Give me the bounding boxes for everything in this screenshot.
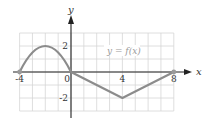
endpoint-dot xyxy=(17,70,22,75)
y-tick-label: 2 xyxy=(62,41,68,51)
x-tick-label: 4 xyxy=(120,74,126,84)
x-tick-label: 8 xyxy=(171,74,177,84)
y-tick-label: -2 xyxy=(59,93,68,103)
function-label: y = f(x) xyxy=(106,46,141,56)
x-axis-label: x xyxy=(196,66,202,77)
endpoint-dot xyxy=(171,70,176,75)
x-tick-label: 0 xyxy=(64,74,70,84)
function-annotation: y = f(x) xyxy=(104,45,141,56)
function-graph: x y -40482-2 y = f(x) xyxy=(0,0,207,122)
y-axis-label: y xyxy=(67,4,74,15)
x-tick-label: -4 xyxy=(15,74,24,84)
x-axis-arrow-icon xyxy=(184,69,192,75)
y-axis-arrow-icon xyxy=(68,15,74,24)
